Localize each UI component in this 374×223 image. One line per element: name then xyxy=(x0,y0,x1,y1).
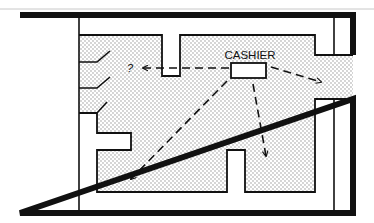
store-floor-plan: CASHIER ? xyxy=(0,0,374,223)
cashier-label: CASHIER xyxy=(224,49,275,61)
cashier-desk xyxy=(231,63,266,78)
question-mark: ? xyxy=(127,62,134,74)
